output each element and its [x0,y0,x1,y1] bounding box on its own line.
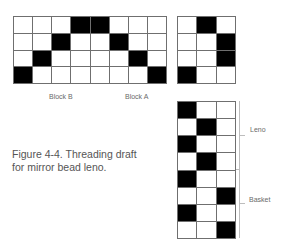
basket-bracket [239,170,240,238]
empty-cell [71,67,90,84]
filled-cell [178,205,197,222]
filled-cell [33,51,52,68]
filled-cell [178,67,197,84]
filled-cell [217,188,236,205]
empty-cell [52,67,71,84]
empty-cell [110,67,129,84]
empty-cell [217,17,236,34]
empty-cell [52,51,71,68]
filled-cell [217,51,236,68]
filled-cell [71,17,90,34]
empty-cell [197,67,216,84]
empty-cell [110,51,129,68]
empty-cell [148,17,167,34]
empty-cell [217,205,236,222]
empty-cell [217,67,236,84]
empty-cell [33,34,52,51]
filled-cell [197,119,216,136]
filled-cell [52,34,71,51]
leno-bracket-tick [240,135,245,136]
filled-cell [91,17,110,34]
threading-draft-grid [13,16,167,84]
empty-cell [178,51,197,68]
filled-cell [148,67,167,84]
empty-cell [178,222,197,239]
filled-cell [110,34,129,51]
empty-cell [217,136,236,153]
filled-cell [197,153,216,170]
empty-cell [91,34,110,51]
empty-cell [14,17,33,34]
filled-cell [217,34,236,51]
empty-cell [148,51,167,68]
empty-cell [197,51,216,68]
empty-cell [52,17,71,34]
empty-cell [197,34,216,51]
empty-cell [197,188,216,205]
empty-cell [217,171,236,188]
empty-cell [110,17,129,34]
figure-caption: Figure 4-4. Threading draft for mirror b… [12,148,172,174]
empty-cell [14,34,33,51]
empty-cell [178,119,197,136]
empty-cell [197,136,216,153]
empty-cell [129,34,148,51]
empty-cell [178,188,197,205]
bracket-divider [236,169,240,170]
filled-cell [178,102,197,119]
empty-cell [217,153,236,170]
empty-cell [71,34,90,51]
empty-cell [71,51,90,68]
empty-cell [178,153,197,170]
empty-cell [129,17,148,34]
caption-line-1: Figure 4-4. Threading draft [12,148,172,161]
empty-cell [33,67,52,84]
filled-cell [178,171,197,188]
empty-cell [197,102,216,119]
empty-cell [197,205,216,222]
empty-cell [197,222,216,239]
empty-cell [14,51,33,68]
empty-cell [91,67,110,84]
block-b-label: Block B [49,93,73,100]
treadling-grid [177,101,236,239]
empty-cell [33,17,52,34]
empty-cell [178,17,197,34]
tieup-grid [177,16,236,84]
filled-cell [197,17,216,34]
empty-cell [217,119,236,136]
basket-label: Basket [249,196,270,203]
empty-cell [197,171,216,188]
filled-cell [129,51,148,68]
empty-cell [91,51,110,68]
filled-cell [178,136,197,153]
block-a-label: Block A [125,93,148,100]
filled-cell [14,67,33,84]
empty-cell [178,34,197,51]
empty-cell [148,34,167,51]
caption-line-2: for mirror bead leno. [12,161,172,174]
basket-bracket-tick [240,203,245,204]
filled-cell [217,222,236,239]
leno-label: Leno [250,126,266,133]
empty-cell [217,102,236,119]
empty-cell [129,67,148,84]
